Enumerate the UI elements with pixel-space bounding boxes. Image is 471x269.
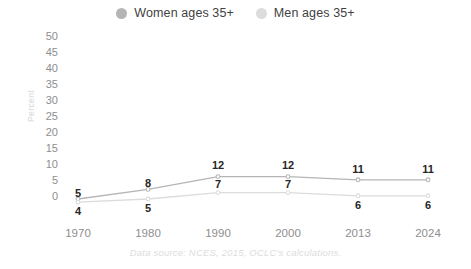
value-label-women-1980: 8 (128, 178, 168, 189)
x-tick-2013: 2013 (328, 228, 388, 240)
value-label-women-2024: 11 (408, 164, 448, 175)
data-point-marker (76, 200, 80, 204)
value-label-women-2013: 11 (338, 164, 378, 175)
value-label-women-1970: 5 (58, 188, 98, 199)
x-tick-2024: 2024 (398, 228, 458, 240)
value-label-men-2000: 7 (268, 179, 308, 190)
data-point-marker (426, 194, 430, 198)
data-point-marker (216, 191, 220, 195)
x-tick-1970: 1970 (48, 228, 108, 240)
value-label-men-2024: 6 (408, 200, 448, 211)
value-label-men-1980: 5 (128, 203, 168, 214)
x-tick-1980: 1980 (118, 228, 178, 240)
data-source-note: Data source: NCES, 2015, OCLC's calculat… (0, 247, 471, 258)
x-tick-2000: 2000 (258, 228, 318, 240)
data-point-marker (286, 191, 290, 195)
data-point-marker (356, 178, 360, 182)
value-label-men-1970: 4 (58, 206, 98, 217)
data-point-marker (356, 194, 360, 198)
value-label-women-1990: 12 (198, 160, 238, 171)
line-chart: Women ages 35+ Men ages 35+ Percent 50 4… (0, 0, 471, 269)
data-point-marker (426, 178, 430, 182)
value-label-men-1990: 7 (198, 179, 238, 190)
value-label-men-2013: 6 (338, 200, 378, 211)
value-label-women-2000: 12 (268, 160, 308, 171)
x-tick-1990: 1990 (188, 228, 248, 240)
data-point-marker (146, 197, 150, 201)
